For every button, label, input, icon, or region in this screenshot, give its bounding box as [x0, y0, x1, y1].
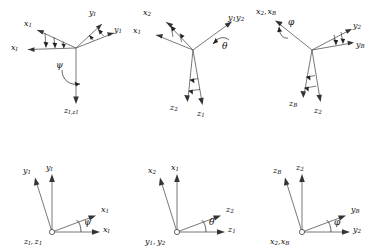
axes-top-left: [28, 24, 114, 104]
label-bottom-left-xI: xI: [103, 226, 110, 235]
label-top-middle-y-shared: y1y2: [228, 14, 244, 23]
label-bottom-middle-z2: z2: [226, 206, 234, 215]
label-top-right-phi: φ: [288, 18, 294, 27]
label-top-middle-z2: z2: [170, 104, 178, 113]
label-top-right-zB: zB: [289, 100, 297, 109]
label-bottom-right-z2: z2: [296, 164, 304, 173]
axes-bottom-middle: [159, 174, 225, 235]
label-top-left-psi: ψ: [56, 61, 63, 70]
label-bottom-middle-origin: y1, y2: [145, 238, 165, 247]
label-bottom-right-y2: y2: [353, 226, 361, 235]
label-top-left-yI: yI: [89, 9, 96, 18]
panel-bottom-right-roll-plane: [250, 145, 369, 250]
label-bottom-middle-x2: x2: [148, 167, 156, 176]
euler-angle-figure: x1 xI yI y1 ψ zI,z1: [0, 0, 369, 250]
label-bottom-left-x1: x1: [101, 206, 109, 215]
label-top-right-yB: yB: [356, 41, 365, 50]
label-bottom-right-yB: yB: [351, 206, 360, 215]
label-bottom-middle-x1: x1: [171, 164, 179, 173]
label-top-middle-x1: x1: [133, 27, 141, 36]
label-bottom-right-phi: φ: [334, 218, 340, 227]
label-bottom-left-origin: zI, z1: [24, 238, 42, 247]
label-top-right-z2: z2: [314, 107, 322, 116]
label-top-middle-x2: x2: [143, 9, 151, 18]
label-bottom-right-zB: zB: [273, 167, 281, 176]
label-bottom-left-psi: ψ: [84, 218, 91, 227]
label-bottom-right-origin: x2,xB: [270, 238, 289, 247]
panel-top-right-roll: [250, 0, 369, 125]
label-top-right-x-shared: x2, xB: [256, 8, 276, 17]
label-top-middle-z1: z1: [197, 110, 205, 119]
label-top-left-y1: y1: [114, 26, 122, 35]
label-bottom-left-y1: y1: [23, 167, 31, 176]
label-top-left-xI: xI: [11, 44, 18, 53]
axes-top-right: [275, 21, 354, 103]
axes-top-middle: [156, 22, 232, 106]
label-top-middle-theta: θ: [222, 42, 227, 51]
label-top-left-x1: x1: [24, 20, 32, 29]
label-bottom-middle-theta: θ: [209, 218, 214, 227]
label-top-right-y2: y2: [353, 22, 361, 31]
label-bottom-left-yI: yI: [46, 164, 53, 173]
label-top-left-z-shared: zI,z1: [64, 107, 79, 116]
label-bottom-middle-z1: z1: [228, 226, 236, 235]
